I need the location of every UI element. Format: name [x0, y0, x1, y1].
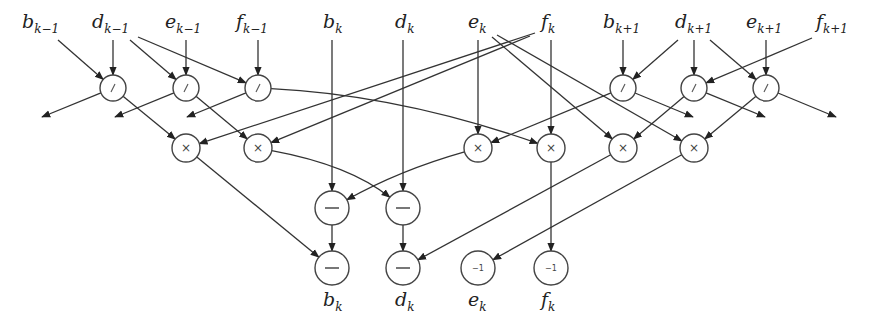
top-label-4: bk — [323, 10, 342, 36]
node-sub3 — [315, 251, 349, 285]
node-div1 — [100, 75, 126, 101]
cyclic-reduction-diagram: ××××××−1−1 bk−1dk−1ek−1fk−1bkdkekfkbk+1d… — [0, 0, 874, 325]
node-sub2 — [386, 191, 420, 225]
bottom-label-3: fk — [539, 288, 555, 314]
svg-text:×: × — [689, 141, 699, 155]
svg-text:×: × — [546, 141, 556, 155]
node-div5 — [681, 75, 707, 101]
node-inv2: −1 — [534, 251, 568, 285]
svg-text:−1: −1 — [472, 264, 484, 273]
node-mul1: × — [172, 134, 200, 162]
top-label-5: dk — [395, 10, 414, 36]
node-mul2: × — [244, 134, 272, 162]
top-label-7: fk — [539, 10, 555, 36]
bottom-label-0: bk — [323, 288, 342, 314]
top-label-3: fk−1 — [234, 10, 268, 36]
node-inv1: −1 — [461, 251, 495, 285]
svg-text:×: × — [618, 141, 628, 155]
edges — [42, 33, 836, 260]
svg-text:−1: −1 — [545, 264, 557, 273]
variable-labels: bk−1dk−1ek−1fk−1bkdkekfkbk+1dk+1ek+1fk+1… — [22, 10, 848, 314]
top-label-9: dk+1 — [675, 10, 712, 36]
svg-text:×: × — [181, 141, 191, 155]
bottom-label-2: ek — [468, 288, 487, 314]
node-div2 — [173, 75, 199, 101]
node-mul3: × — [464, 134, 492, 162]
operator-nodes: ××××××−1−1 — [100, 75, 779, 285]
svg-text:×: × — [253, 141, 263, 155]
bottom-label-1: dk — [395, 288, 414, 314]
node-div4 — [610, 75, 636, 101]
node-mul6: × — [680, 134, 708, 162]
node-sub4 — [386, 251, 420, 285]
top-label-0: bk−1 — [22, 10, 59, 36]
node-div3 — [245, 75, 271, 101]
top-label-6: ek — [468, 10, 487, 36]
svg-text:×: × — [473, 141, 483, 155]
top-label-8: bk+1 — [603, 10, 640, 36]
top-label-1: dk−1 — [92, 10, 129, 36]
node-mul5: × — [609, 134, 637, 162]
top-label-11: fk+1 — [814, 10, 848, 36]
node-div6 — [753, 75, 779, 101]
top-label-10: ek+1 — [746, 10, 782, 36]
node-sub1 — [315, 191, 349, 225]
top-label-2: ek−1 — [165, 10, 201, 36]
node-mul4: × — [537, 134, 565, 162]
